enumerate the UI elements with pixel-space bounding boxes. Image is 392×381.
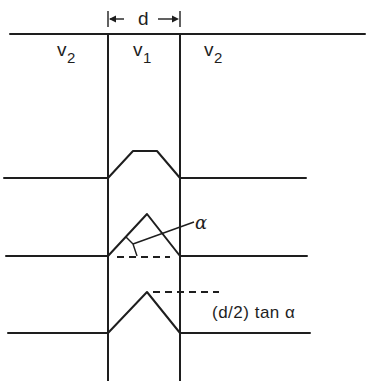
svg-text:2: 2 — [67, 49, 75, 66]
svg-text:v: v — [57, 39, 67, 60]
width-label: d — [138, 8, 149, 29]
profile-triangle-angle: α — [6, 212, 307, 257]
profile-triangle-height: (d/2) tan α — [8, 292, 310, 333]
svg-text:1: 1 — [143, 49, 151, 66]
region-label-right: v 2 — [204, 39, 222, 66]
width-dimension: d — [108, 8, 180, 29]
arrow-right-icon — [172, 16, 179, 23]
diagram-figure: d v 2 v 1 v 2 α (d/2) tan α — [0, 0, 392, 381]
angle-vertical-segment — [133, 244, 137, 256]
region-label-center: v 1 — [133, 39, 151, 66]
height-label: (d/2) tan α — [212, 303, 295, 322]
angle-leader-line — [133, 222, 194, 244]
svg-text:2: 2 — [214, 49, 222, 66]
svg-text:v: v — [133, 39, 143, 60]
region-label-left: v 2 — [57, 39, 75, 66]
arrow-left-icon — [109, 16, 116, 23]
profile-trapezoid — [4, 151, 306, 178]
angle-label: α — [195, 212, 207, 233]
slope-normal-segment — [126, 237, 133, 244]
svg-text:v: v — [204, 39, 214, 60]
